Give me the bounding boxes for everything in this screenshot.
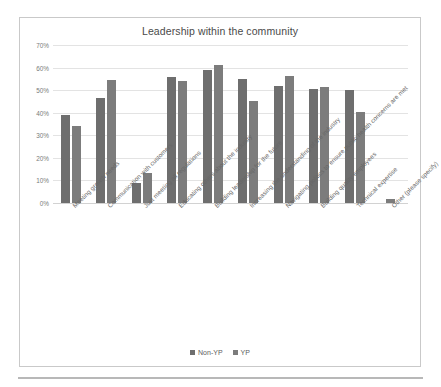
chart-title: Leadership within the community xyxy=(20,25,420,37)
y-axis-tick-label: 40% xyxy=(36,109,49,116)
bar xyxy=(61,115,70,203)
y-axis-tick-label: 60% xyxy=(36,64,49,71)
legend-swatch-icon xyxy=(233,350,238,355)
bar xyxy=(178,81,187,203)
y-axis-tick-label: 0% xyxy=(40,200,49,207)
bar xyxy=(72,126,81,203)
legend-label: YP xyxy=(241,349,250,356)
plot-area: 70%60%50%40%30%20%10%0% xyxy=(53,45,408,203)
y-axis-tick-label: 30% xyxy=(36,132,49,139)
y-axis-tick-label: 20% xyxy=(36,154,49,161)
legend-item[interactable]: Non-YP xyxy=(190,349,223,356)
bar xyxy=(285,76,294,203)
chart-container: Leadership within the community 70%60%50… xyxy=(19,17,421,367)
y-axis-tick-label: 10% xyxy=(36,177,49,184)
bar xyxy=(107,80,116,203)
y-axis-tick-label: 50% xyxy=(36,87,49,94)
bar-group xyxy=(53,45,89,203)
legend-swatch-icon xyxy=(190,350,195,355)
legend-label: Non-YP xyxy=(198,349,223,356)
y-axis-tick-label: 70% xyxy=(36,42,49,49)
bar xyxy=(214,65,223,203)
bar xyxy=(249,101,258,203)
bar xyxy=(320,87,329,203)
bar-groups xyxy=(53,45,408,203)
horizontal-rule xyxy=(18,377,423,379)
legend-item[interactable]: YP xyxy=(233,349,250,356)
chart-legend: Non-YPYP xyxy=(20,349,420,356)
